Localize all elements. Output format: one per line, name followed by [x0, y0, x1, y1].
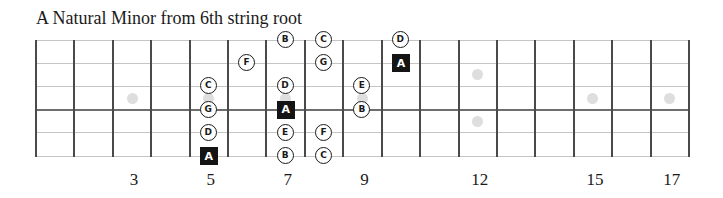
inlay-dot-icon — [664, 93, 675, 104]
inlay-dot-icon — [472, 69, 483, 80]
note-marker: C — [315, 147, 332, 164]
fretboard: CGDAFBDAEBCGFCEBDA3579121517 — [0, 0, 723, 198]
fret-line-3 — [150, 40, 152, 157]
root-note-marker: A — [200, 147, 218, 165]
note-marker: F — [238, 54, 255, 71]
fret-number-label: 9 — [349, 170, 379, 190]
note-marker: G — [315, 54, 332, 71]
fret-line-8 — [342, 40, 344, 157]
fret-line-2 — [112, 40, 114, 157]
note-marker: D — [200, 124, 217, 141]
note-marker: C — [315, 31, 332, 48]
fret-line-5 — [227, 40, 229, 157]
fret-line-15 — [611, 40, 613, 157]
inlay-dot-icon — [587, 93, 598, 104]
fret-line-10 — [419, 40, 421, 157]
inlay-dot-icon — [127, 93, 138, 104]
string-line-6 — [36, 156, 689, 157]
root-note-marker: A — [392, 54, 410, 72]
fret-line-4 — [189, 40, 191, 157]
note-marker: C — [200, 77, 217, 94]
string-line-1 — [36, 40, 689, 41]
note-marker: E — [353, 77, 370, 94]
root-note-marker: A — [277, 101, 295, 119]
fret-line-6 — [265, 40, 267, 157]
fret-line-7 — [304, 40, 306, 157]
fret-line-9 — [381, 40, 383, 157]
string-line-2 — [36, 63, 689, 64]
fret-line-17 — [688, 40, 690, 157]
note-marker: B — [353, 101, 370, 118]
fret-number-label: 12 — [465, 170, 495, 190]
fret-line-12 — [496, 40, 498, 157]
note-marker: D — [277, 77, 294, 94]
fret-number-label: 3 — [119, 170, 149, 190]
fret-number-label: 5 — [196, 170, 226, 190]
fret-line-0 — [35, 40, 37, 157]
note-marker: F — [315, 124, 332, 141]
note-marker: B — [277, 147, 294, 164]
string-line-5 — [36, 132, 689, 133]
fret-line-14 — [573, 40, 575, 157]
note-marker: D — [392, 31, 409, 48]
note-marker: G — [200, 101, 217, 118]
fret-number-label: 15 — [580, 170, 610, 190]
fret-line-13 — [534, 40, 536, 157]
inlay-dot-icon — [472, 116, 483, 127]
fret-number-label: 7 — [273, 170, 303, 190]
fret-line-16 — [650, 40, 652, 157]
fret-line-11 — [458, 40, 460, 157]
note-marker: E — [277, 124, 294, 141]
fret-line-1 — [73, 40, 75, 157]
note-marker: B — [277, 31, 294, 48]
fret-number-label: 17 — [657, 170, 687, 190]
